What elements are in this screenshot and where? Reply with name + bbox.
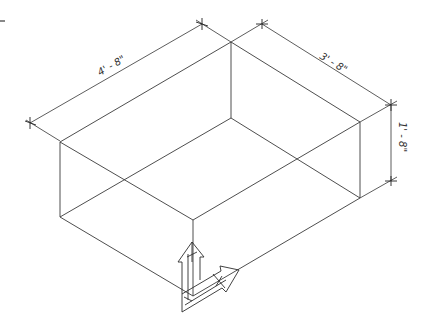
dimension-length: 4' - 8" (25, 18, 231, 141)
dimension-height: 1' - 8" (360, 105, 408, 198)
ucs-axis-icon (178, 242, 239, 312)
height-label: 1' - 8" (397, 122, 408, 152)
isometric-drawing: 4' - 8" 3' - 8" 1' - 8" (0, 0, 423, 333)
dimension-width: 3' - 8" (231, 19, 397, 122)
length-label: 4' - 8" (96, 53, 128, 78)
width-label: 3' - 8" (318, 50, 349, 75)
